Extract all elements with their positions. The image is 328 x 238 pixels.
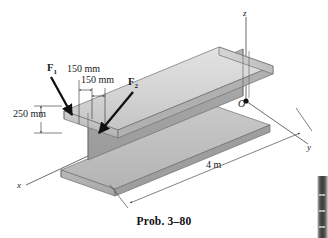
dimension-label-150-a: 150 mm	[67, 64, 100, 74]
figure-caption: Prob. 3–80	[0, 215, 328, 227]
force-label-F1-sub: 1	[53, 68, 57, 76]
force-F1-arrow	[51, 77, 72, 115]
force-label-F1: F1	[47, 63, 57, 76]
page-edge-artifact	[317, 176, 328, 238]
figure-root: F1 F2 150 mm 150 mm 250 mm 4 m z y x O P…	[0, 0, 328, 238]
page-edge-tick-1	[319, 194, 325, 196]
dimension-label-150-b: 150 mm	[81, 75, 114, 85]
axis-label-z: z	[243, 9, 247, 18]
axis-label-y: y	[307, 143, 311, 152]
dimension-label-4m: 4 m	[206, 160, 221, 170]
force-label-F2: F2	[128, 77, 138, 90]
page-edge-tick-2	[319, 210, 325, 212]
force-label-F2-sub: 2	[134, 82, 138, 90]
witness-4m-far	[296, 108, 312, 131]
beam-diagram-svg	[0, 0, 328, 238]
page-edge-tick-3	[319, 226, 325, 228]
axis-label-x: x	[17, 181, 21, 190]
point-label-O: O	[238, 99, 245, 109]
dimension-label-250: 250 mm	[13, 109, 46, 119]
